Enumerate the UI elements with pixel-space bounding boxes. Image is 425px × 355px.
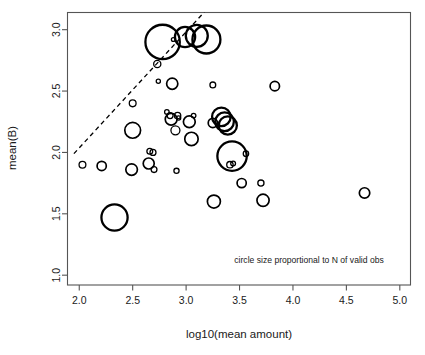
y-tick-label: 2.5 bbox=[51, 84, 63, 99]
y-tick-label: 2.0 bbox=[51, 145, 63, 160]
circle-size-note: circle size proportional to N of valid o… bbox=[234, 255, 384, 265]
x-tick-label: 3.0 bbox=[179, 294, 194, 306]
chart-canvas: 2.02.53.03.54.04.55.0 1.01.52.02.53.0 ci… bbox=[0, 0, 425, 355]
y-tick-label: 1.0 bbox=[51, 268, 63, 283]
x-axis-title: log10(mean amount) bbox=[186, 328, 292, 340]
scatter-plot-figure: 2.02.53.03.54.04.55.0 1.01.52.02.53.0 ci… bbox=[0, 0, 425, 355]
annotation-group: circle size proportional to N of valid o… bbox=[234, 255, 384, 265]
y-tick-label: 1.5 bbox=[51, 206, 63, 221]
y-tick-label: 3.0 bbox=[51, 22, 63, 37]
y-axis-title: mean(B) bbox=[6, 126, 18, 170]
x-tick-label: 2.5 bbox=[125, 294, 140, 306]
x-tick-label: 5.0 bbox=[393, 294, 408, 306]
x-tick-label: 4.5 bbox=[339, 294, 354, 306]
x-tick-label: 4.0 bbox=[286, 294, 301, 306]
x-tick-label: 2.0 bbox=[72, 294, 87, 306]
x-tick-label: 3.5 bbox=[232, 294, 247, 306]
